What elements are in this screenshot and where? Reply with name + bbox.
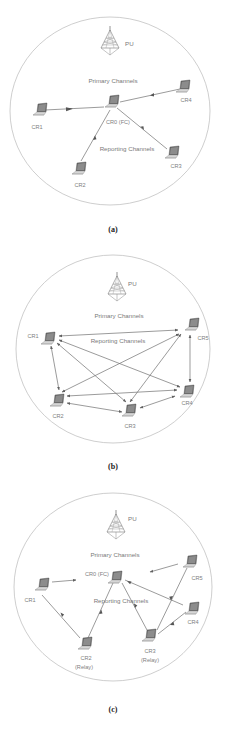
reporting-channels-label: Reporting Channels <box>100 145 155 152</box>
node-label-cr4: CR4 <box>180 97 191 103</box>
primary-channels-label: Primary Channels <box>88 77 137 84</box>
node-label-cr1: CR1 <box>27 333 38 339</box>
link-cr2-cr3 <box>67 403 122 412</box>
link-cr2-cr0 <box>81 110 110 161</box>
node-label-cr3: CR3 <box>170 163 181 169</box>
link-cr2-cr4 <box>67 390 177 396</box>
laptop-icon-cr4 <box>176 80 190 92</box>
laptop-icon-cr3 <box>122 404 136 416</box>
link-cr1-cr5 <box>59 330 178 336</box>
caption-b: (b) <box>108 462 118 471</box>
cognitive-radio-topology-figure: PU Primary Channels CR0 (FC) CR1 CR2 CR3… <box>0 0 225 731</box>
laptop-icon-cr5 <box>183 555 197 567</box>
link-cr1-cr2 <box>51 346 59 390</box>
node-label-cr1: CR1 <box>24 597 35 603</box>
link-cr3-cr5 <box>130 334 181 402</box>
link-cr2-cr0 <box>88 583 113 638</box>
laptop-icon-cr2 <box>72 162 86 174</box>
laptop-icon-cr4 <box>185 602 199 614</box>
laptop-icon-cr0 <box>108 571 122 583</box>
laptop-icon-cr2 <box>78 637 92 649</box>
node-label-cr2: CR2 <box>74 182 85 188</box>
primary-channels-label: Primary Channels <box>90 551 139 558</box>
primary-channels-label: Primary Channels <box>94 312 143 319</box>
panel-a: PU Primary Channels CR0 (FC) CR1 CR2 CR3… <box>10 17 210 234</box>
reporting-channels-label: Reporting Channels <box>94 597 149 604</box>
panel-b: PU Primary Channels CR1 CR2 CR3 CR4 CR5 … <box>16 255 210 471</box>
node-label-cr3: CR3 <box>124 423 135 429</box>
link-cr1-cr0 <box>45 107 104 110</box>
laptop-icon-cr1 <box>41 332 55 344</box>
node-label-cr0: CR0 (FC) <box>85 571 109 577</box>
coverage-ring <box>16 255 210 443</box>
laptop-icon-cr4 <box>180 385 194 397</box>
primary-user-tower-icon <box>107 510 125 539</box>
link-cr3-cr0 <box>122 583 147 630</box>
laptop-icon-cr3 <box>142 629 156 641</box>
node-label-cr1: CR1 <box>31 124 42 130</box>
link-cr3-cr4 <box>140 396 175 408</box>
pu-label: PU <box>128 515 137 522</box>
laptop-icon-cr1 <box>33 103 47 115</box>
node-label-cr5: CR5 <box>191 575 202 581</box>
node-label-cr2: CR2 <box>52 413 63 419</box>
node-label-cr5: CR5 <box>197 335 208 341</box>
caption-a: (a) <box>108 225 118 234</box>
link-cr5-cr0 <box>150 564 178 572</box>
node-label-cr4: CR4 <box>187 619 198 625</box>
pu-label: PU <box>128 280 137 287</box>
link-cr5-cr3 <box>157 568 187 630</box>
link-cr1-cr2 <box>42 595 80 638</box>
laptop-icon-cr5 <box>185 318 199 330</box>
laptop-icon-cr3 <box>165 146 179 158</box>
caption-c: (c) <box>109 705 118 714</box>
panel-c: PU Primary Channels CR0 (FC) CR1 CR2 (Re… <box>14 493 212 714</box>
link-cr3-cr0 <box>117 108 167 149</box>
laptop-icon-cr0 <box>105 95 119 107</box>
node-sublabel-cr2: (Relay) <box>75 664 93 670</box>
reporting-channels-label: Reporting Channels <box>91 337 146 344</box>
node-sublabel-cr3: (Relay) <box>141 657 159 663</box>
laptop-icon-cr1 <box>35 578 49 590</box>
pu-label: PU <box>125 40 134 47</box>
node-label-cr3: CR3 <box>144 648 155 654</box>
node-label-cr0: CR0 (FC) <box>106 119 130 125</box>
primary-user-tower-icon <box>108 272 126 301</box>
primary-user-tower-icon <box>101 26 119 55</box>
node-label-cr4: CR4 <box>181 400 192 406</box>
node-label-cr2: CR2 <box>80 655 91 661</box>
laptop-icon-cr2 <box>50 394 64 406</box>
link-cr1-cr0 <box>52 580 76 582</box>
